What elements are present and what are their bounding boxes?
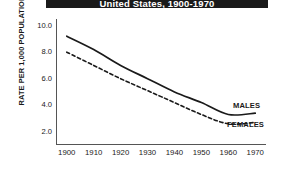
x-tick-label: 1910	[85, 148, 102, 157]
series-label-males: MALES	[233, 101, 260, 110]
chart-title-banner: United States, 1900-1970	[46, 0, 268, 8]
chart-figure: United States, 1900-1970 RATE PER 1,000 …	[0, 0, 287, 181]
series-line-males	[67, 36, 255, 115]
x-axis-tick-labels: 19001910192019301940195019601970	[56, 148, 266, 162]
x-tick-label: 1950	[193, 148, 210, 157]
x-tick-label: 1960	[220, 148, 237, 157]
x-tick-label: 1920	[112, 148, 129, 157]
y-tick-label: 2.0	[41, 128, 52, 136]
x-tick-label: 1930	[139, 148, 156, 157]
x-tick-label: 1940	[166, 148, 183, 157]
y-axis-tick-labels: 2.04.06.08.010.0	[18, 19, 52, 145]
x-tick-label: 1970	[247, 148, 264, 157]
y-tick-label: 8.0	[41, 48, 52, 56]
series-label-females: FEMALES	[227, 120, 264, 129]
y-tick-label: 10.0	[37, 22, 52, 30]
x-tick-label: 1900	[58, 148, 75, 157]
y-tick-label: 4.0	[41, 101, 52, 109]
y-tick-label: 6.0	[41, 75, 52, 83]
chart-title: United States, 1900-1970	[99, 0, 214, 8]
